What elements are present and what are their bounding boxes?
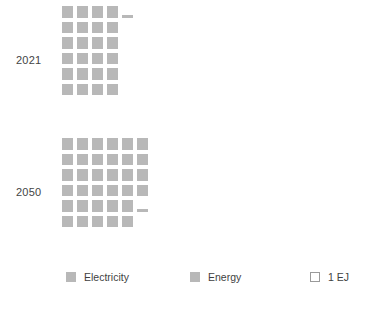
waffle-cell (107, 37, 118, 49)
waffle-cell (137, 185, 148, 197)
waffle-row (62, 37, 182, 53)
waffle-grid-2021 (62, 6, 182, 99)
waffle-cell (122, 200, 133, 212)
waffle-cell-empty (137, 53, 148, 65)
waffle-cell (77, 169, 88, 181)
legend-item-unit[interactable]: 1 EJ (310, 270, 349, 284)
waffle-cell (107, 84, 118, 96)
waffle-cell (107, 138, 118, 150)
waffle-group-2021: 2021 (0, 6, 182, 99)
waffle-cell (107, 200, 118, 212)
waffle-cell (137, 169, 148, 181)
waffle-cell (92, 154, 103, 166)
row-label-2021: 2021 (0, 55, 62, 66)
waffle-cell (62, 185, 73, 197)
waffle-cell (107, 22, 118, 34)
waffle-cell-empty (137, 84, 148, 96)
waffle-cell (62, 200, 73, 212)
waffle-cell (77, 6, 88, 18)
waffle-cell (122, 154, 133, 166)
chart-legend: Electricity Energy 1 EJ (0, 270, 379, 290)
waffle-cell-empty (122, 84, 133, 96)
waffle-cell (92, 6, 103, 18)
waffle-cell (107, 68, 118, 80)
legend-item-electricity[interactable]: Electricity (66, 270, 129, 284)
waffle-cell (92, 84, 103, 96)
waffle-cell (62, 138, 73, 150)
waffle-cell (92, 169, 103, 181)
waffle-cell-empty (137, 216, 148, 228)
waffle-row (62, 22, 182, 38)
waffle-cell (77, 22, 88, 34)
waffle-cell (62, 84, 73, 96)
legend-swatch-icon (66, 272, 76, 282)
waffle-cell (107, 169, 118, 181)
row-label-2050: 2050 (0, 187, 62, 198)
legend-swatch-icon (190, 272, 200, 282)
legend-label: Energy (208, 272, 241, 283)
legend-swatch-outline-icon (310, 272, 320, 282)
waffle-cell-partial (137, 200, 148, 212)
waffle-cell (77, 154, 88, 166)
waffle-row (62, 216, 182, 232)
waffle-cell-empty (137, 37, 148, 49)
waffle-cell (122, 169, 133, 181)
waffle-cell-empty (122, 37, 133, 49)
waffle-cell (62, 68, 73, 80)
waffle-group-2050: 2050 (0, 138, 182, 231)
waffle-cell (77, 138, 88, 150)
waffle-cell (62, 169, 73, 181)
waffle-cell (77, 185, 88, 197)
waffle-cell (62, 53, 73, 65)
waffle-row (62, 6, 182, 22)
waffle-cell-empty (137, 68, 148, 80)
waffle-cell (62, 6, 73, 18)
waffle-cell (92, 68, 103, 80)
waffle-cell (62, 37, 73, 49)
waffle-cell (62, 216, 73, 228)
waffle-cell (77, 53, 88, 65)
waffle-row (62, 68, 182, 84)
waffle-cell (77, 37, 88, 49)
waffle-row (62, 84, 182, 100)
waffle-cell (77, 68, 88, 80)
waffle-cell (137, 138, 148, 150)
waffle-cell (92, 200, 103, 212)
waffle-cell (122, 216, 133, 228)
waffle-cell (92, 53, 103, 65)
waffle-cell (107, 185, 118, 197)
waffle-grid-2050 (62, 138, 182, 231)
waffle-cell (92, 185, 103, 197)
waffle-cell-empty (122, 68, 133, 80)
waffle-cell (92, 22, 103, 34)
waffle-row (62, 169, 182, 185)
waffle-cell (122, 185, 133, 197)
waffle-cell (92, 216, 103, 228)
waffle-cell (77, 216, 88, 228)
waffle-cell (137, 154, 148, 166)
waffle-cell (107, 6, 118, 18)
waffle-cell (107, 154, 118, 166)
legend-label: 1 EJ (328, 272, 349, 283)
waffle-cell (77, 84, 88, 96)
waffle-cell (62, 22, 73, 34)
waffle-row (62, 53, 182, 69)
waffle-chart: 2021 (0, 0, 379, 309)
waffle-cell (77, 200, 88, 212)
waffle-cell-empty (137, 6, 148, 18)
waffle-cell (62, 154, 73, 166)
waffle-cell (107, 53, 118, 65)
legend-item-energy[interactable]: Energy (190, 270, 241, 284)
waffle-row (62, 200, 182, 216)
legend-label: Electricity (84, 272, 129, 283)
waffle-cell-partial (122, 6, 133, 18)
waffle-cell (107, 216, 118, 228)
waffle-cell (122, 138, 133, 150)
waffle-row (62, 185, 182, 201)
waffle-cell (92, 37, 103, 49)
waffle-cell-empty (137, 22, 148, 34)
waffle-row (62, 138, 182, 154)
waffle-row (62, 154, 182, 170)
waffle-cell-empty (122, 22, 133, 34)
waffle-cell (92, 138, 103, 150)
